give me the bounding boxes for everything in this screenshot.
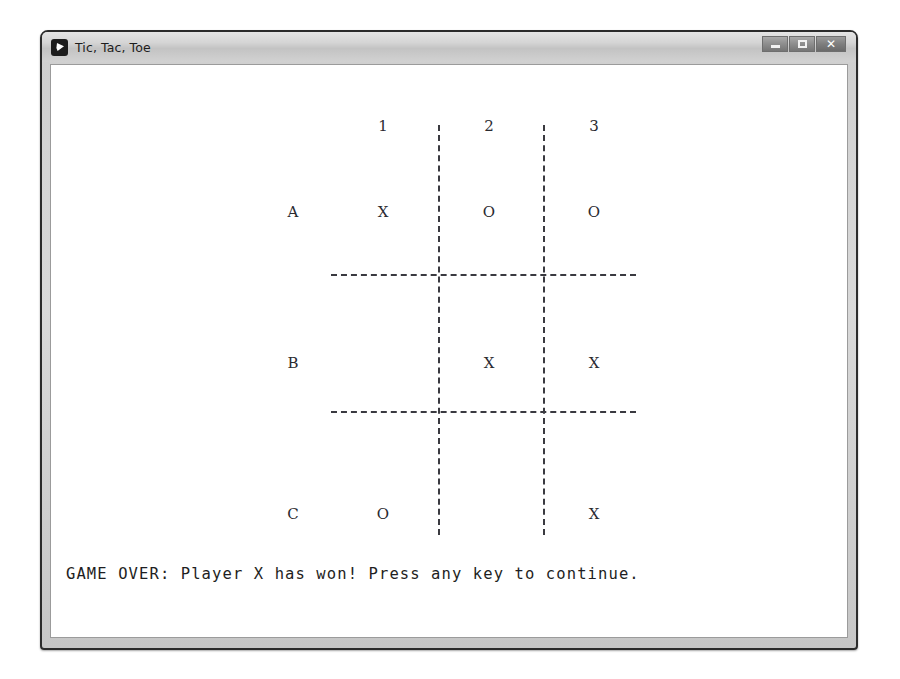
grid-vertical-line-2 xyxy=(543,125,545,535)
row-label-c: C xyxy=(278,505,308,523)
close-icon: ✕ xyxy=(826,37,836,51)
cell-c3[interactable]: X xyxy=(577,505,611,523)
column-header-3: 3 xyxy=(579,117,609,135)
cell-b3[interactable]: X xyxy=(577,354,611,372)
row-label-b: B xyxy=(278,354,308,372)
play-badge-icon xyxy=(51,39,68,56)
row-label-a: A xyxy=(278,203,308,221)
cell-a2[interactable]: O xyxy=(472,203,506,221)
console-surface: 1 2 3 A B C X O O X X xyxy=(51,65,847,637)
close-button[interactable]: ✕ xyxy=(816,36,846,52)
minimize-button[interactable] xyxy=(762,36,788,52)
minimize-icon xyxy=(771,45,780,48)
grid-vertical-line-1 xyxy=(438,125,440,535)
status-message: GAME OVER: Player X has won! Press any k… xyxy=(66,565,640,583)
application-window: Tic, Tac, Toe ✕ 1 2 3 A B C xyxy=(40,30,858,650)
maximize-icon xyxy=(798,40,807,48)
cell-c1[interactable]: O xyxy=(366,505,400,523)
column-header-1: 1 xyxy=(368,117,398,135)
grid-horizontal-line-2 xyxy=(331,411,636,413)
grid-horizontal-line-1 xyxy=(331,274,636,276)
maximize-button[interactable] xyxy=(789,36,815,52)
cell-b2[interactable]: X xyxy=(472,354,506,372)
cell-a3[interactable]: O xyxy=(577,203,611,221)
title-bar[interactable]: Tic, Tac, Toe ✕ xyxy=(42,32,856,62)
window-title: Tic, Tac, Toe xyxy=(75,40,151,55)
console-client-area: 1 2 3 A B C X O O X X xyxy=(50,64,848,638)
column-header-2: 2 xyxy=(474,117,504,135)
tic-tac-toe-board: 1 2 3 A B C X O O X X xyxy=(51,65,847,637)
cell-a1[interactable]: X xyxy=(366,203,400,221)
window-buttons: ✕ xyxy=(762,36,846,52)
